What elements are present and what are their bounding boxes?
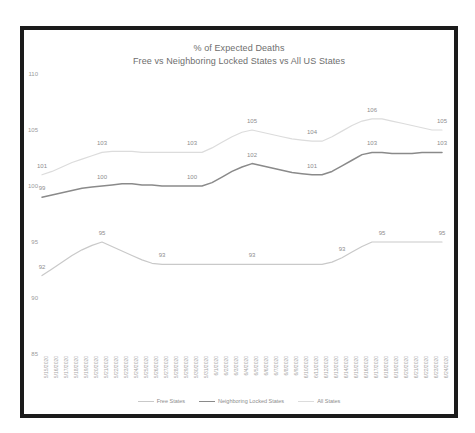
- data-point-label: 102: [247, 152, 257, 158]
- y-axis-tick: 90: [31, 295, 38, 301]
- x-axis-tick: 6/6/2020: [264, 356, 269, 375]
- legend-swatch-icon: [199, 401, 215, 402]
- legend-label: Neighboring Locked States: [218, 398, 284, 404]
- data-point-label: 93: [339, 246, 346, 252]
- data-point-label: 106: [367, 107, 377, 113]
- x-axis-tick: 5/24/2020: [134, 356, 139, 378]
- x-axis-labels: 5/15/20205/16/20205/17/20205/18/20205/19…: [42, 356, 442, 414]
- series-line: [42, 242, 442, 276]
- data-point-label: 95: [379, 230, 386, 236]
- legend-item[interactable]: Neighboring Locked States: [199, 398, 284, 404]
- x-axis-tick: 6/20/2020: [404, 356, 409, 378]
- chart-title: % of Expected Deaths Free vs Neighboring…: [24, 42, 454, 68]
- x-axis-tick: 6/17/2020: [374, 356, 379, 378]
- plot-area: 8590951001051109295939393959599100100102…: [42, 74, 442, 354]
- x-axis-tick: 6/3/2020: [234, 356, 239, 375]
- data-point-label: 103: [367, 140, 377, 146]
- x-axis-tick: 6/4/2020: [244, 356, 249, 375]
- x-axis-tick: 6/8/2020: [284, 356, 289, 375]
- x-axis-tick: 6/22/2020: [424, 356, 429, 378]
- x-axis-tick: 6/11/2020: [314, 356, 319, 378]
- x-axis-tick: 6/23/2020: [434, 356, 439, 378]
- chart-legend: Free StatesNeighboring Locked StatesAll …: [24, 398, 454, 404]
- y-axis-tick: 100: [28, 183, 38, 189]
- data-point-label: 103: [187, 140, 197, 146]
- data-point-label: 92: [39, 264, 46, 270]
- x-axis-tick: 6/9/2020: [294, 356, 299, 375]
- x-axis-tick: 5/21/2020: [104, 356, 109, 378]
- data-point-label: 99: [39, 185, 46, 191]
- data-point-label: 103: [437, 140, 447, 146]
- x-axis-tick: 5/20/2020: [94, 356, 99, 378]
- chart-title-main: % of Expected Deaths: [24, 42, 454, 55]
- x-axis-tick: 6/13/2020: [334, 356, 339, 378]
- data-point-label: 101: [37, 163, 47, 169]
- x-axis-tick: 5/30/2020: [194, 356, 199, 378]
- x-axis-tick: 5/31/2020: [204, 356, 209, 378]
- x-axis-tick: 6/7/2020: [274, 356, 279, 375]
- data-point-label: 105: [437, 118, 447, 124]
- x-axis-tick: 6/15/2020: [354, 356, 359, 378]
- x-axis-tick: 5/25/2020: [144, 356, 149, 378]
- data-point-label: 95: [439, 230, 446, 236]
- x-axis-tick: 5/17/2020: [64, 356, 69, 378]
- data-point-label: 103: [97, 140, 107, 146]
- x-axis-tick: 5/23/2020: [124, 356, 129, 378]
- legend-label: Free States: [157, 398, 185, 404]
- data-point-label: 100: [97, 174, 107, 180]
- x-axis-tick: 5/26/2020: [154, 356, 159, 378]
- data-point-label: 105: [247, 118, 257, 124]
- legend-swatch-icon: [138, 401, 154, 402]
- x-axis-tick: 6/10/2020: [304, 356, 309, 378]
- legend-swatch-icon: [298, 401, 314, 402]
- x-axis-tick: 6/16/2020: [364, 356, 369, 378]
- x-axis-tick: 6/12/2020: [324, 356, 329, 378]
- y-axis-tick: 105: [28, 127, 38, 133]
- chart-title-sub: Free vs Neighboring Locked States vs All…: [24, 55, 454, 68]
- x-axis-tick: 5/15/2020: [44, 356, 49, 378]
- x-axis-tick: 6/21/2020: [414, 356, 419, 378]
- x-axis-tick: 5/27/2020: [164, 356, 169, 378]
- x-axis-tick: 6/1/2020: [214, 356, 219, 375]
- screenshot-page: % of Expected Deaths Free vs Neighboring…: [0, 0, 475, 433]
- data-point-label: 93: [249, 252, 256, 258]
- x-axis-tick: 6/24/2020: [444, 356, 449, 378]
- x-axis-tick: 6/14/2020: [344, 356, 349, 378]
- x-axis-tick: 6/18/2020: [384, 356, 389, 378]
- data-point-label: 95: [99, 230, 106, 236]
- y-axis-tick: 85: [31, 351, 38, 357]
- legend-label: All States: [317, 398, 340, 404]
- x-axis-tick: 5/29/2020: [184, 356, 189, 378]
- data-point-label: 104: [307, 129, 317, 135]
- x-axis-tick: 5/16/2020: [54, 356, 59, 378]
- chart-canvas: % of Expected Deaths Free vs Neighboring…: [24, 30, 454, 414]
- data-point-label: 93: [159, 252, 166, 258]
- data-point-label: 101: [307, 163, 317, 169]
- x-axis-tick: 6/2/2020: [224, 356, 229, 375]
- y-axis-tick: 110: [28, 71, 38, 77]
- y-axis-tick: 95: [31, 239, 38, 245]
- x-axis-tick: 5/22/2020: [114, 356, 119, 378]
- data-point-label: 100: [187, 174, 197, 180]
- x-axis-tick: 5/18/2020: [74, 356, 79, 378]
- legend-item[interactable]: All States: [298, 398, 340, 404]
- x-axis-tick: 6/5/2020: [254, 356, 259, 375]
- x-axis-tick: 5/19/2020: [84, 356, 89, 378]
- plot-svg: [42, 74, 442, 354]
- chart-frame: % of Expected Deaths Free vs Neighboring…: [20, 26, 458, 418]
- x-axis-tick: 6/19/2020: [394, 356, 399, 378]
- legend-item[interactable]: Free States: [138, 398, 185, 404]
- x-axis-tick: 5/28/2020: [174, 356, 179, 378]
